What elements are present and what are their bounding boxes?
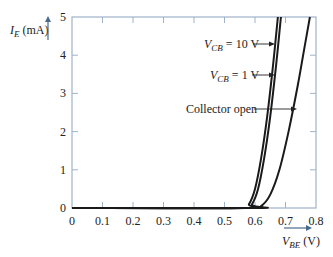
annotation-arrow-icon — [254, 107, 297, 112]
annotation-vcb-10v: VCB = 10 V — [204, 37, 259, 53]
y-tick-label: 4 — [60, 48, 66, 62]
y-tick-label: 1 — [60, 163, 66, 177]
x-tick-label: 0.3 — [156, 214, 171, 228]
y-axis-title: IE (mA) — [9, 23, 49, 39]
x-tick-label: 0 — [69, 214, 75, 228]
x-tick-label: 0.5 — [217, 214, 232, 228]
x-axis-title: VBE (V) — [282, 234, 320, 250]
tick-labels: 00.10.20.30.40.50.60.70.8012345 — [60, 10, 324, 228]
chart: 00.10.20.30.40.50.60.70.8012345 IE (mA) … — [0, 0, 333, 257]
x-tick-label: 0.6 — [248, 214, 263, 228]
y-tick-label: 3 — [60, 86, 66, 100]
x-tick-label: 0.4 — [187, 214, 202, 228]
x-tick-label: 0.2 — [126, 214, 141, 228]
annotation-collector-open: Collector open — [186, 102, 257, 116]
y-tick-label: 5 — [60, 10, 66, 24]
x-tick-label: 0.1 — [95, 214, 110, 228]
annotation-vcb-1v: VCB = 1 V — [210, 68, 259, 84]
y-tick-label: 2 — [60, 125, 66, 139]
x-tick-label: 0.7 — [278, 214, 293, 228]
x-tick-label: 0.8 — [309, 214, 324, 228]
y-tick-label: 0 — [60, 201, 66, 215]
